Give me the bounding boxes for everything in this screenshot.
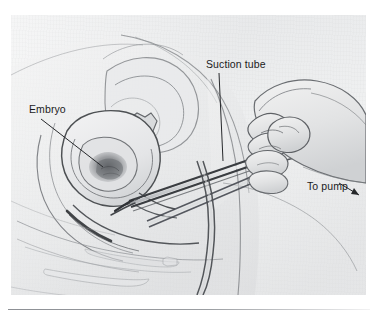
bottom-divider-rule [8,309,370,310]
illustration-panel: Embryo Suction tube To pump [11,15,366,295]
label-suction-tube: Suction tube [206,58,266,70]
label-embryo: Embryo [29,103,66,115]
embryo [89,152,127,182]
label-to-pump: To pump [307,180,348,192]
medical-illustration-artwork [11,15,366,295]
figure-page: Embryo Suction tube To pump [0,0,378,318]
